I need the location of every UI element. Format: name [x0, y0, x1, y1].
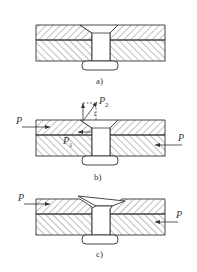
- bottom-plate-right: [110, 135, 165, 156]
- bottom-plate-left: [36, 214, 92, 235]
- angle-mark: 1: [93, 110, 97, 118]
- top-plate-right: [110, 25, 165, 40]
- caption-b: b): [94, 172, 102, 182]
- bottom-plate-right: [110, 214, 165, 235]
- p1-subscript: 1: [69, 141, 73, 149]
- force-label-right: P: [175, 209, 182, 220]
- rivet-failure-diagram: a) P P P 2 1 P 1 b): [0, 0, 197, 272]
- top-plate-left: [36, 199, 92, 214]
- panel-c: P P c): [17, 192, 182, 259]
- force-label-left: P: [15, 115, 22, 126]
- caption-c: c): [96, 249, 103, 259]
- bottom-plate-left: [36, 40, 92, 61]
- panel-b: P P P 2 1 P 1 b): [15, 95, 184, 182]
- rivet-shank: [92, 206, 112, 235]
- rivet-tail-head: [82, 156, 118, 165]
- top-plate-right: [110, 120, 165, 135]
- rivet-tail-head: [82, 235, 118, 244]
- caption-a: a): [96, 76, 103, 86]
- bottom-plate-right: [110, 40, 165, 61]
- p2-subscript: 2: [105, 101, 109, 109]
- force-label-left: P: [17, 192, 24, 203]
- rivet-tail-head: [82, 61, 118, 70]
- force-label-right: P: [177, 132, 184, 143]
- panel-a: a): [36, 25, 165, 86]
